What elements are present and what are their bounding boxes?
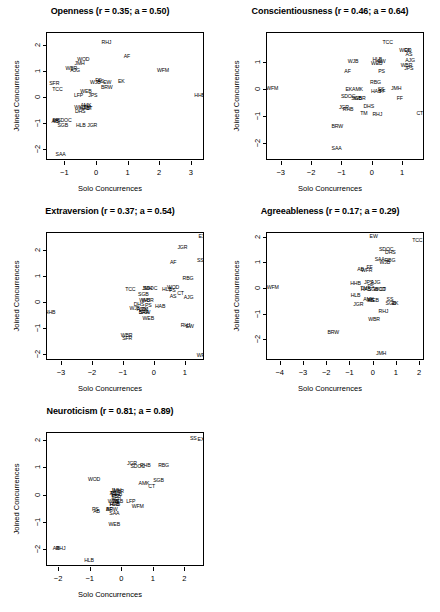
- data-point-label: AS: [367, 298, 374, 303]
- x-axis-tick: [311, 161, 312, 165]
- y-axis-tick-label: 1: [253, 255, 262, 269]
- y-axis-tick-label: 1: [33, 64, 42, 78]
- x-axis-tick-label: 2: [182, 574, 186, 583]
- plot-area: TCCWODEKASHLBEWWJBWEBAJGWBRJPSAFPSRBGEKA…: [267, 33, 423, 159]
- y-axis-tick: [263, 143, 267, 144]
- x-axis-tick: [184, 567, 185, 571]
- y-axis-tick: [43, 522, 47, 523]
- y-axis-tick: [263, 116, 267, 117]
- x-axis-tick: [349, 361, 350, 365]
- x-axis-tick: [90, 567, 91, 571]
- data-point-label: AJG: [70, 69, 80, 74]
- data-point-label: JMH: [376, 351, 386, 356]
- x-axis-tick: [123, 361, 124, 365]
- data-point-label: WBR: [368, 317, 380, 322]
- y-axis-tick-label: 0: [253, 82, 262, 96]
- y-axis-tick-label: 0: [33, 90, 42, 104]
- x-axis-tick-label: 1: [125, 168, 129, 177]
- x-axis-tick-label: −1: [119, 368, 128, 377]
- y-axis-tick-label: −1: [33, 321, 42, 335]
- x-axis-title: Solo Concurrences: [220, 384, 440, 393]
- plot-area: EWTCCSDOCDHSSAARBGWJBFFABWFRJPSAJGHHBPSW…: [267, 233, 423, 359]
- x-axis-tick-label: −3: [299, 368, 308, 377]
- data-point-label: TCC: [52, 87, 62, 92]
- data-point-label: AJG: [184, 295, 194, 300]
- figure-canvas: Openness (r = 0.35; a = 0.50)RHJAFWODJMH…: [0, 0, 440, 612]
- panel-title: Agreeableness (r = 0.17; a = 0.29): [220, 206, 440, 216]
- y-axis-tick: [43, 328, 47, 329]
- x-axis-tick: [373, 361, 374, 365]
- scatter-panel-extraversion: Extraversion (r = 0.37; a = 0.54)EXJGRSS…: [0, 206, 220, 406]
- data-point-label: WFM: [267, 285, 279, 290]
- y-axis-tick: [263, 339, 267, 340]
- data-point-label: SAA: [109, 511, 119, 516]
- data-point-label: AF: [124, 55, 130, 60]
- data-point-label: WEB: [371, 61, 382, 66]
- panel-title: Openness (r = 0.35; a = 0.50): [0, 6, 220, 16]
- data-point-label: RHJ: [102, 40, 112, 45]
- x-axis-tick-label: 1: [151, 574, 155, 583]
- x-axis-tick: [61, 361, 62, 365]
- data-point-label: TCC: [383, 40, 393, 45]
- data-point-label: AF: [170, 260, 176, 265]
- data-point-label: EW: [370, 235, 378, 240]
- data-point-label: SAA: [332, 147, 342, 152]
- x-axis-tick-label: 0: [119, 574, 123, 583]
- x-axis-title: Solo Concurrences: [0, 184, 220, 193]
- y-axis-tick: [43, 276, 47, 277]
- x-axis-tick: [372, 161, 373, 165]
- y-axis-title: Joined Concurrences: [12, 61, 21, 132]
- x-axis-tick-label: 1: [400, 168, 404, 177]
- y-axis-tick: [43, 149, 47, 150]
- y-axis-tick-label: −2: [33, 542, 42, 556]
- y-axis-tick-label: 2: [33, 433, 42, 447]
- x-axis-tick-label: 0: [371, 368, 375, 377]
- y-axis-tick-label: −1: [33, 515, 42, 529]
- y-axis-title: Joined Concurrences: [232, 261, 241, 332]
- x-axis-tick: [191, 161, 192, 165]
- data-point-label: DHS: [75, 110, 86, 115]
- data-point-label: BRW: [331, 124, 343, 129]
- y-axis-tick-label: −2: [33, 347, 42, 361]
- y-axis-tick: [43, 495, 47, 496]
- x-axis-tick-label: −2: [54, 574, 63, 583]
- data-point-label: JGR: [177, 245, 187, 250]
- x-axis-tick: [326, 361, 327, 365]
- x-axis-tick-label: 2: [417, 368, 421, 377]
- data-point-label: CT: [379, 287, 386, 292]
- data-point-label: LFP: [74, 94, 83, 99]
- y-axis-tick: [43, 123, 47, 124]
- y-axis-tick-label: −1: [253, 307, 262, 321]
- x-axis-tick-label: −2: [88, 368, 97, 377]
- scatter-panel-conscientiousness: Conscientiousness (r = 0.46; a = 0.64)TC…: [220, 6, 440, 206]
- x-axis-tick-label: −1: [337, 168, 346, 177]
- y-axis-title: Joined Concurrences: [12, 464, 21, 535]
- y-axis-tick: [43, 302, 47, 303]
- data-point-label: RHJ: [372, 112, 382, 117]
- data-point-label: RHJ: [56, 547, 66, 552]
- x-axis-tick-label: 1: [394, 368, 398, 377]
- y-axis-tick-label: 1: [33, 269, 42, 283]
- data-point-label: WJB: [380, 261, 391, 266]
- y-axis-title: Joined Concurrences: [12, 261, 21, 332]
- y-axis-tick: [43, 354, 47, 355]
- data-point-label: CT: [148, 484, 155, 489]
- data-point-label: AS: [170, 294, 177, 299]
- y-axis-tick: [43, 97, 47, 98]
- y-axis-tick-label: 2: [253, 230, 262, 244]
- data-point-label: RBG: [183, 276, 194, 281]
- data-point-label: RBG: [370, 81, 381, 86]
- x-axis-tick-label: −1: [345, 368, 354, 377]
- plot-area: EXJGRSSAFRBGTCCJMHSDOCHLBWODFSCTSGBASAJG…: [47, 233, 203, 359]
- data-point-label: CT: [417, 111, 423, 116]
- y-axis-tick-label: 0: [33, 295, 42, 309]
- x-axis-tick: [341, 161, 342, 165]
- x-axis-tick: [185, 361, 186, 365]
- plot-frame: EXJGRSSAFRBGTCCJMHSDOCHLBWODFSCTSGBASAJG…: [46, 232, 204, 360]
- y-axis-title: Joined Concurrences: [232, 61, 241, 132]
- y-axis-tick: [263, 288, 267, 289]
- data-point-label: FF: [379, 89, 385, 94]
- panel-title: Extraversion (r = 0.37; a = 0.54): [0, 206, 220, 216]
- x-axis-tick-label: −2: [307, 168, 316, 177]
- data-point-label: TCC: [412, 239, 422, 244]
